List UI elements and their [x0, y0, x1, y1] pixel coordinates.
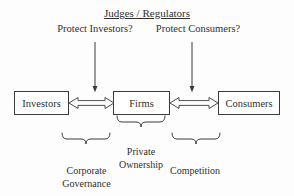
arrow-firms-consumers: [170, 98, 218, 109]
brace-private-ownership: [117, 116, 165, 127]
label-corporate-governance-line2: Governance: [44, 178, 129, 191]
label-corporate-governance-line1: Corporate: [44, 165, 129, 178]
box-label-investors: Investors: [14, 91, 69, 115]
label-protect-consumers: Protect Consumers?: [128, 23, 268, 35]
label-corporate-governance: Corporate Governance: [44, 165, 129, 190]
diagram-title: Judges / Regulators: [0, 7, 294, 19]
diagram-canvas: Judges / Regulators Protect Investors? P…: [0, 0, 294, 196]
arrow-investors-firms: [69, 98, 114, 109]
box-label-consumers: Consumers: [218, 91, 280, 115]
brace-corporate-governance: [62, 133, 110, 144]
brace-competition: [172, 133, 220, 144]
label-private-ownership-line1: Private: [101, 146, 181, 159]
box-label-firms: Firms: [113, 91, 170, 115]
label-competition: Competition: [155, 165, 235, 176]
